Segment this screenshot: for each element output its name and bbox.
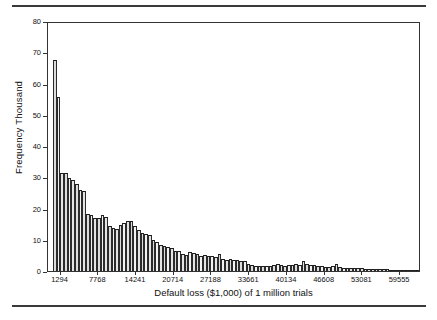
x-axis-tick-label: 33661 <box>238 275 259 284</box>
y-axis-title: Frequency Thousand <box>13 28 24 228</box>
y-axis-tick-label: 70 <box>33 48 41 57</box>
x-axis-tick-label: 1294 <box>51 275 68 284</box>
x-axis: 1294776814241207142718833661401344660853… <box>47 272 420 288</box>
x-axis-tick-label: 46608 <box>313 275 334 284</box>
plot-area <box>47 22 420 272</box>
y-axis-tick-label: 20 <box>33 205 41 214</box>
x-axis-tick-label: 53081 <box>351 275 372 284</box>
y-axis-tick-label: 80 <box>33 17 41 26</box>
y-axis: Frequency Thousand 01020304050607080 <box>0 22 47 272</box>
bottom-horizontal-rule <box>12 305 426 307</box>
figure-container: Frequency Thousand 01020304050607080 129… <box>0 0 437 320</box>
y-axis-tick-label: 40 <box>33 142 41 151</box>
histogram-bars <box>48 23 419 271</box>
y-axis-tick-label: 10 <box>33 236 41 245</box>
y-axis-tick-label: 0 <box>37 267 41 276</box>
x-axis-title: Default loss ($1,000) of 1 million trial… <box>47 287 420 298</box>
histogram-bar <box>415 270 419 271</box>
x-axis-tick-label: 14241 <box>125 275 146 284</box>
x-axis-tick-label: 59555 <box>389 275 410 284</box>
x-axis-tick-label: 40134 <box>275 275 296 284</box>
x-axis-tick-label: 7768 <box>89 275 106 284</box>
y-axis-tick-label: 30 <box>33 173 41 182</box>
y-axis-tick-label: 60 <box>33 80 41 89</box>
x-axis-tick-label: 20714 <box>162 275 183 284</box>
top-horizontal-rule <box>12 5 426 7</box>
y-axis-tick-label: 50 <box>33 111 41 120</box>
x-axis-tick-label: 27188 <box>200 275 221 284</box>
